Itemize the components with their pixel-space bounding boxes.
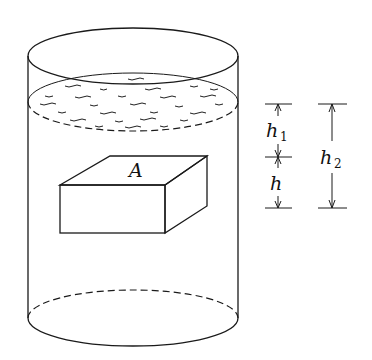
block-label: A — [127, 159, 143, 181]
cylinder-bottom-back — [28, 290, 238, 318]
diagram-canvas: A h 1 h h 2 — [0, 0, 372, 360]
h2-label: h — [320, 146, 332, 168]
h2-subscript: 2 — [334, 157, 342, 171]
cylinder-bottom-front — [28, 318, 238, 346]
dimension-h1-h: h 1 h — [265, 104, 292, 208]
dimension-h2: h 2 — [318, 104, 347, 208]
water-surface-back — [28, 73, 238, 102]
h1-subscript: 1 — [280, 130, 288, 144]
block-side-face — [165, 156, 207, 233]
water-surface — [28, 73, 238, 131]
water-ripples — [40, 78, 223, 128]
h1-label: h — [266, 119, 278, 141]
block-a: A — [60, 156, 207, 233]
block-front-face — [60, 185, 165, 233]
cylinder-top-rim — [28, 28, 238, 84]
h-label: h — [270, 172, 282, 194]
